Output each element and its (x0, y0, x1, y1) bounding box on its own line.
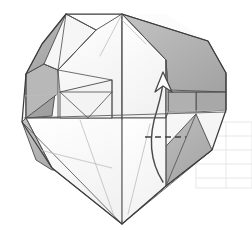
origami-illustration: Origami folding step diagram Line-art or… (0, 0, 252, 230)
white-facet-lower-right (122, 118, 166, 224)
shaded-facet-right-notch (196, 92, 226, 112)
origami-diagram-figure: Origami folding step diagram Line-art or… (0, 0, 252, 230)
white-facet-lower-left (26, 118, 122, 224)
shaded-facet-right-lower (168, 92, 196, 112)
